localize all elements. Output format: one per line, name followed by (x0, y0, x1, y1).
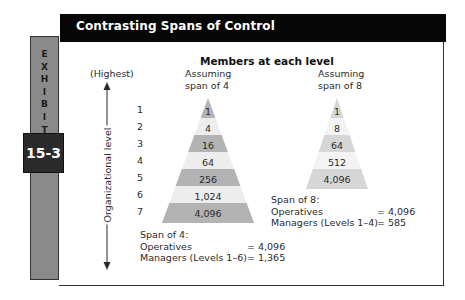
level-number: 3 (134, 138, 146, 149)
level-number: 7 (134, 206, 146, 217)
level-number: 4 (134, 155, 146, 166)
span4-level-value: 256 (180, 172, 236, 186)
exhibit-label: E X H I B I T (30, 48, 59, 136)
axis-top-label: (Highest) (90, 68, 134, 79)
span8-heading-line2: span of 8 (318, 80, 364, 92)
exhibit-number: 15-3 (23, 133, 64, 173)
span4-operatives-label: Operatives (140, 241, 247, 253)
span8-heading-line1: Assuming (318, 68, 364, 80)
exhibit-letter: I (30, 111, 59, 124)
span4-operatives-value: = 4,096 (247, 241, 285, 253)
span8-level-value: 8 (312, 121, 362, 135)
span4-summary: Span of 4: Operatives = 4,096 Managers (… (140, 229, 285, 264)
span8-summary-title: Span of 8: (271, 194, 415, 206)
exhibit-letter: E (30, 48, 59, 61)
span8-managers-value: = 585 (377, 217, 406, 229)
span8-operatives-row: Operatives = 4,096 (271, 206, 415, 218)
span8-managers-label: Managers (Levels 1–4) (271, 217, 377, 229)
span4-operatives-row: Operatives = 4,096 (140, 241, 285, 253)
page-title: Contrasting Spans of Control (76, 19, 275, 33)
axis-label: Organizational level (102, 126, 113, 225)
span4-level-value: 1 (180, 104, 236, 118)
span8-summary: Span of 8: Operatives = 4,096 Managers (… (271, 194, 415, 229)
span4-heading: Assuming span of 4 (185, 68, 231, 91)
span4-level-value: 16 (180, 138, 236, 152)
level-number: 1 (134, 104, 146, 115)
span4-heading-line2: span of 4 (185, 80, 231, 92)
chart-title: Members at each level (200, 55, 334, 67)
span4-managers-row: Managers (Levels 1–6) = 1,365 (140, 252, 285, 264)
span4-level-value: 64 (180, 155, 236, 169)
span4-managers-label: Managers (Levels 1–6) (140, 252, 247, 264)
exhibit-letter: B (30, 98, 59, 111)
span4-level-value: 4 (180, 121, 236, 135)
span8-operatives-value: = 4,096 (377, 206, 415, 218)
span4-summary-title: Span of 4: (140, 229, 285, 241)
exhibit-letter: X (30, 61, 59, 74)
span8-level-value: 4,096 (312, 172, 362, 186)
exhibit-letter: I (30, 86, 59, 99)
span8-heading: Assuming span of 8 (318, 68, 364, 91)
span8-managers-row: Managers (Levels 1–4) = 585 (271, 217, 415, 229)
exhibit-letter: H (30, 73, 59, 86)
level-number: 5 (134, 172, 146, 183)
level-number: 6 (134, 189, 146, 200)
span4-heading-line1: Assuming (185, 68, 231, 80)
span8-level-value: 512 (312, 155, 362, 169)
span4-managers-value: = 1,365 (247, 252, 285, 264)
span8-level-value: 64 (312, 138, 362, 152)
level-number: 2 (134, 121, 146, 132)
span8-operatives-label: Operatives (271, 206, 377, 218)
span4-level-value: 1,024 (180, 189, 236, 203)
span4-level-value: 4,096 (180, 206, 236, 220)
span8-level-value: 1 (312, 104, 362, 118)
